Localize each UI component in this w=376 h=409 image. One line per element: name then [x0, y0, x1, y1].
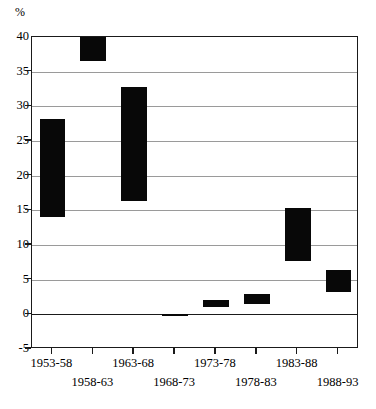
bar-chart: % 4035302520151050-5 1953-581958-631963-…: [0, 0, 376, 409]
gridline: [32, 280, 357, 281]
x-axis-tick-mark: [173, 348, 174, 354]
bar: [80, 37, 106, 61]
gridline: [32, 72, 357, 73]
x-axis-tick-label: 1973-78: [194, 357, 236, 370]
gridline: [32, 106, 357, 107]
x-axis-tick-mark: [132, 348, 133, 354]
x-axis-tick-label: 1978-83: [235, 376, 277, 389]
x-axis-tick-label: 1968-73: [153, 376, 195, 389]
gridline: [32, 176, 357, 177]
bar: [326, 270, 352, 292]
x-axis-tick-label: 1983-88: [276, 357, 318, 370]
zero-line: [32, 314, 357, 316]
bar: [203, 300, 229, 307]
x-axis-tick-mark: [214, 348, 215, 354]
x-axis-tick-mark: [92, 348, 93, 354]
plot-area: [31, 36, 358, 348]
x-axis-tick-label: 1963-68: [112, 357, 154, 370]
x-axis-tick-label: 1988-93: [317, 376, 359, 389]
x-axis-tick-label: 1953-58: [31, 357, 73, 370]
x-axis-tick-mark: [255, 348, 256, 354]
x-axis-tick-mark: [296, 348, 297, 354]
x-axis-tick-mark: [51, 348, 52, 354]
gridline: [32, 141, 357, 142]
y-axis-unit-label: %: [15, 6, 25, 19]
x-axis-tick-mark: [337, 348, 338, 354]
y-axis-tick-label: 40: [0, 30, 29, 42]
bar: [244, 294, 270, 304]
bar: [162, 314, 188, 316]
bar: [121, 87, 147, 201]
bar: [285, 208, 311, 261]
bar: [40, 119, 66, 217]
x-axis-tick-label: 1958-63: [71, 376, 113, 389]
